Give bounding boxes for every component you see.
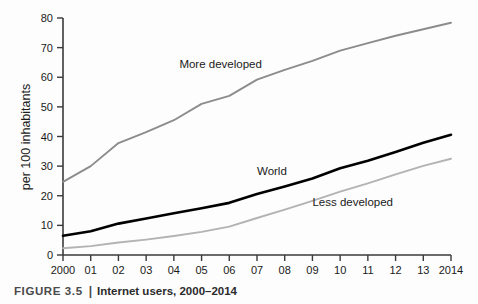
x-tick-label: 11: [362, 264, 373, 276]
line-chart-svg: 01020304050607080 2000010203040506070809…: [0, 0, 478, 278]
figure-container: 01020304050607080 2000010203040506070809…: [0, 0, 478, 304]
x-tick-label: 2000: [51, 264, 75, 276]
y-tick-group: 01020304050607080: [41, 12, 63, 261]
x-tick-label: 01: [85, 264, 97, 276]
x-tick-label: 02: [112, 264, 124, 276]
y-axis: 01020304050607080: [41, 12, 63, 261]
series-label-world: World: [257, 165, 287, 177]
figure-caption: FIGURE 3.5 | Internet users, 2000–2014: [0, 278, 478, 304]
series-line-more-developed: [63, 23, 451, 182]
x-tick-label: 08: [279, 264, 291, 276]
y-tick-label: 60: [41, 71, 53, 83]
x-tick-label: 12: [389, 264, 401, 276]
x-tick-label: 05: [195, 264, 207, 276]
x-tick-label: 06: [223, 264, 235, 276]
x-tick-label: 2014: [439, 264, 463, 276]
series-label-less-developed: Less developed: [312, 196, 393, 208]
caption-figure-label: FIGURE 3.5: [14, 285, 83, 297]
y-tick-label: 0: [47, 249, 53, 261]
x-tick-label: 09: [306, 264, 318, 276]
x-axis: 2000010203040506070809101112132014: [51, 255, 463, 276]
y-tick-label: 50: [41, 101, 53, 113]
x-tick-label: 04: [168, 264, 180, 276]
caption-title-text: Internet users, 2000–2014: [97, 285, 237, 297]
y-tick-label: 80: [41, 12, 53, 24]
y-tick-label: 30: [41, 160, 53, 172]
x-tick-label: 03: [140, 264, 152, 276]
y-tick-label: 40: [41, 131, 53, 143]
x-tick-group: 2000010203040506070809101112132014: [51, 255, 463, 276]
series-line-world: [63, 135, 451, 236]
series-label-more-developed: More developed: [179, 58, 261, 70]
x-tick-label: 07: [251, 264, 263, 276]
caption-separator: |: [89, 284, 92, 298]
y-tick-label: 70: [41, 42, 53, 54]
y-tick-label: 10: [41, 219, 53, 231]
y-axis-title: per 100 inhabitants: [19, 84, 33, 190]
chart-plot-area: 01020304050607080 2000010203040506070809…: [0, 0, 478, 278]
series-line-group: [63, 23, 451, 248]
x-tick-label: 10: [334, 264, 346, 276]
y-tick-label: 20: [41, 190, 53, 202]
x-tick-label: 13: [417, 264, 429, 276]
